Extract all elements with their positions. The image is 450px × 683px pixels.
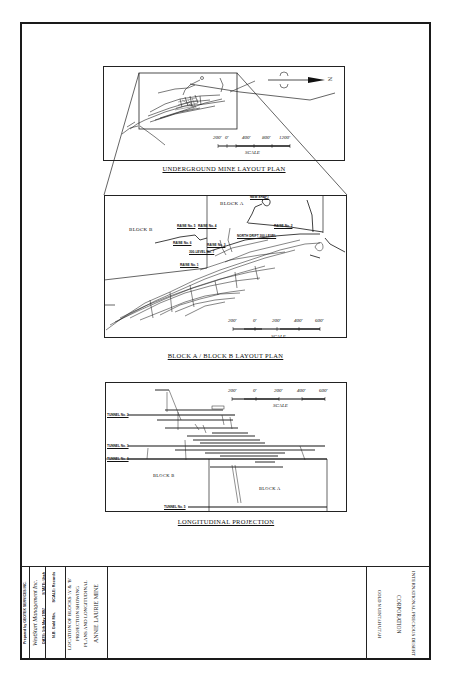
title-line-2: PLANS AND LONGITUDINAL <box>83 570 88 658</box>
state-label-text: STATE: Utah <box>42 572 46 595</box>
title-block-dates-cell <box>46 567 66 660</box>
prepared-by-text: Prepared by GEOTEK SERVICES INC. <box>23 570 27 656</box>
date-label-text: DATE: 5th May 1997 <box>42 608 46 644</box>
drawn-label-text: N.B. Gold Min. <box>52 612 56 638</box>
long-block-a-label: BLOCK A <box>259 486 280 491</box>
company-text: WestStart Management Inc. <box>32 570 38 656</box>
long-scale-tick-1: 200' <box>228 388 237 393</box>
client-line-2: CORPORATION <box>396 570 402 658</box>
title-line-3: PROJECTION SHOWING <box>75 570 80 658</box>
level-tunnel-5: TUNNEL No. 5 <box>164 505 186 509</box>
level-tunnel-3: TUNNEL No. 3 <box>107 444 129 448</box>
title-line-1: ANNIE LAURIE MINE <box>93 570 99 658</box>
title-line-4: LOCATION OF BLOCKS 'A' & 'B' <box>67 570 72 658</box>
long-block-b-label: BLOCK B <box>153 473 174 478</box>
client-line-1: INTERNATIONAL PRECIOUS DESERT <box>411 570 416 658</box>
client-location-text: GOLD N UINTAH UTAH <box>377 570 382 658</box>
long-scale-tick-2: 0' <box>253 388 257 393</box>
level-tunnel-4: TUNNEL No. 4 <box>107 457 129 461</box>
longitudinal-caption: LONGITUDINAL PROJECTION <box>105 518 347 525</box>
title-block-blank-cell <box>108 567 367 660</box>
long-scale-tick-4: 400' <box>297 388 306 393</box>
long-scale-tick-3: 200' <box>274 388 283 393</box>
level-tunnel-2: TUNNEL No. 2 <box>107 413 129 417</box>
scale-label-text: SCALE: Records <box>52 572 56 602</box>
long-scale-tick-5: 600' <box>319 388 328 393</box>
long-scale-label: SCALE <box>273 403 288 408</box>
